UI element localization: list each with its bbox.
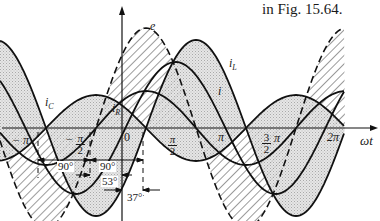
- angle-label: 90°: [99, 161, 116, 172]
- y-axis-arrow-icon: [119, 6, 125, 15]
- angle-label: 53°: [101, 176, 118, 187]
- waveform-diagram: [0, 0, 380, 221]
- curve-label-i: i: [218, 85, 221, 97]
- figure-caption: in Fig. 15.64.: [262, 2, 342, 17]
- curve-label-i-r: iR: [112, 102, 120, 117]
- x-tick-label: 2π: [327, 131, 339, 143]
- x-axis-arrow-icon: [370, 125, 378, 131]
- curve-label-i-l: iL: [229, 57, 237, 72]
- x-axis-label: ωt: [360, 134, 373, 147]
- x-tick-label: − π2: [66, 132, 85, 156]
- curve-label-e: e: [150, 20, 155, 32]
- curve-fills: [0, 28, 345, 221]
- x-tick-label: 0: [124, 131, 130, 143]
- x-tick-label: 32 π: [262, 131, 280, 155]
- x-tick-label: − π: [12, 134, 29, 146]
- curve-label-i-c: iC: [45, 96, 54, 111]
- angle-label: 90°: [57, 161, 74, 172]
- x-tick-label: π2: [168, 133, 177, 157]
- x-tick-label: π: [218, 131, 224, 143]
- angle-label: 37°: [126, 192, 143, 203]
